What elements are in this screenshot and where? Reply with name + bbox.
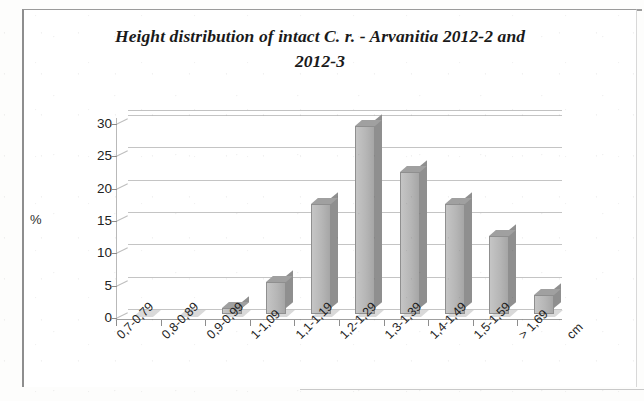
bar-side-face (331, 192, 338, 308)
bar-side-face (465, 192, 472, 308)
y-axis-tick-mark (111, 318, 117, 319)
gridline-connector (116, 215, 128, 222)
gridline (128, 212, 562, 213)
chart-plot-area: % 051015202530 0,7-0,790,8-0,890,9-0,991… (0, 0, 644, 401)
bar-front-face (445, 204, 465, 314)
x-axis-unit-label: cm (564, 320, 586, 342)
x-axis-tick-mark (116, 320, 117, 326)
scanned-page: Height distribution of intact C. r. - Ar… (0, 0, 644, 401)
bar-front-face (311, 204, 331, 314)
y-axis-tick-label: 30 (70, 116, 112, 131)
gridline-connector (116, 118, 128, 125)
x-axis-tick-mark (517, 320, 518, 326)
x-axis-tick-mark (339, 320, 340, 326)
y-axis-tick-mark (111, 156, 117, 157)
x-axis-tick-mark (294, 320, 295, 326)
bar-front-face (400, 172, 420, 314)
y-axis-ticks: 051015202530 (60, 0, 112, 401)
y-axis-tick-label: 20 (70, 181, 112, 196)
gridline (128, 115, 562, 116)
gridline (128, 147, 562, 148)
bar-side-face (420, 160, 427, 308)
gridline-connector (116, 183, 128, 190)
y-axis-tick-mark (111, 189, 117, 190)
gridline-connector (116, 248, 128, 255)
y-axis-tick-mark (111, 221, 117, 222)
x-axis-tick-mark (473, 320, 474, 326)
bar (445, 204, 465, 314)
bar (355, 126, 375, 314)
x-axis-tick-mark (428, 320, 429, 326)
bar (400, 172, 420, 314)
y-axis-tick-label: 25 (70, 148, 112, 163)
x-axis-tick-mark (205, 320, 206, 326)
gridline (128, 180, 562, 181)
bar-front-face (355, 126, 375, 314)
x-axis-tick-mark (250, 320, 251, 326)
y-axis-tick-label: 0 (70, 310, 112, 325)
y-axis-title: % (30, 212, 42, 227)
y-axis-tick-mark (111, 253, 117, 254)
y-axis-line (116, 118, 117, 320)
y-axis-tick-label: 10 (70, 245, 112, 260)
y-axis-tick-mark (111, 286, 117, 287)
y-axis-tick-label: 5 (70, 278, 112, 293)
gridline-connector (116, 151, 128, 158)
x-axis-tick-mark (161, 320, 162, 326)
bar-side-face (375, 115, 382, 308)
gridline-connector (116, 280, 128, 287)
bar (311, 204, 331, 314)
y-axis-tick-mark (111, 124, 117, 125)
bar-side-face (509, 225, 516, 308)
x-axis-tick-mark (384, 320, 385, 326)
y-axis-tick-label: 15 (70, 213, 112, 228)
